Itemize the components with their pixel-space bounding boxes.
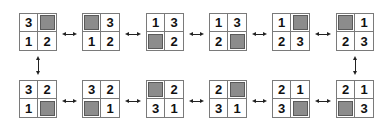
bidirectional-arrow-icon [252,32,267,37]
tile: 3 [20,81,38,99]
vertical-bidirectional-arrow-icon [353,56,358,75]
blank-tile-icon [40,101,55,116]
tile: 3 [101,14,119,32]
tile: 1 [83,32,101,50]
tile: 3 [291,32,309,50]
tile: 1 [147,14,165,32]
tile: 3 [83,81,101,99]
blank-cell [38,99,56,117]
puzzle-state: 321 [82,80,120,118]
tile: 1 [210,14,228,32]
blank-tile-icon [338,15,353,30]
blank-tile-icon [84,15,99,30]
bidirectional-arrow-icon [315,99,331,104]
blank-cell [337,14,355,32]
blank-tile-icon [338,101,353,116]
blank-tile-icon [230,82,245,97]
blank-tile-icon [230,34,245,49]
puzzle-state: 312 [19,13,57,51]
vertical-bidirectional-arrow-icon [36,56,41,75]
bidirectional-arrow-icon [189,32,204,37]
tile: 1 [355,14,373,32]
tile: 2 [273,32,291,50]
puzzle-state: 321 [19,80,57,118]
bidirectional-arrow-icon [125,32,141,37]
bidirectional-arrow-icon [189,99,204,104]
tile: 1 [355,81,373,99]
tile: 2 [165,32,183,50]
puzzle-state: 132 [146,13,184,51]
blank-cell [337,99,355,117]
blank-cell [38,14,56,32]
tile: 1 [101,99,119,117]
tile: 3 [355,32,373,50]
blank-cell [228,32,246,50]
tile: 2 [38,81,56,99]
bidirectional-arrow-icon [252,99,267,104]
blank-tile-icon [148,34,163,49]
tile: 3 [210,99,228,117]
puzzle-state: 132 [209,13,247,51]
bidirectional-arrow-icon [62,99,77,104]
blank-tile-icon [84,101,99,116]
tile: 1 [228,99,246,117]
tile: 3 [228,14,246,32]
puzzle-state: 231 [146,80,184,118]
blank-cell [83,14,101,32]
tile: 1 [291,81,309,99]
bidirectional-arrow-icon [62,32,77,37]
blank-cell [147,81,165,99]
tile: 1 [20,99,38,117]
blank-cell [83,99,101,117]
puzzle-state: 231 [209,80,247,118]
tile: 1 [273,14,291,32]
blank-tile-icon [293,15,308,30]
tile: 2 [337,32,355,50]
tile: 2 [38,32,56,50]
tile: 2 [165,81,183,99]
tile: 3 [20,14,38,32]
tile: 1 [20,32,38,50]
puzzle-state: 123 [272,13,310,51]
blank-tile-icon [293,101,308,116]
tile: 2 [101,81,119,99]
puzzle-state: 213 [336,80,374,118]
tile: 3 [355,99,373,117]
blank-cell [291,99,309,117]
tile: 3 [273,99,291,117]
blank-cell [147,32,165,50]
bidirectional-arrow-icon [315,32,331,37]
tile: 2 [210,32,228,50]
tile: 2 [101,32,119,50]
puzzle-state: 312 [82,13,120,51]
tile: 3 [147,99,165,117]
blank-tile-icon [40,15,55,30]
tile: 3 [165,14,183,32]
tile: 2 [210,81,228,99]
blank-cell [291,14,309,32]
puzzle-state: 123 [336,13,374,51]
blank-tile-icon [148,82,163,97]
tile: 2 [273,81,291,99]
tile: 1 [165,99,183,117]
blank-cell [228,81,246,99]
tile: 2 [337,81,355,99]
puzzle-state: 213 [272,80,310,118]
bidirectional-arrow-icon [125,99,141,104]
